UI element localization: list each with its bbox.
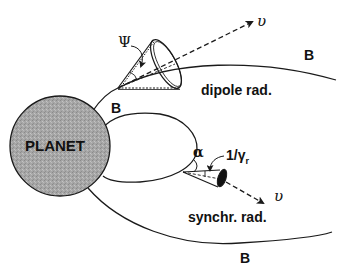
psi-label: Ψ [118, 33, 131, 51]
dipole-rad-label: dipole rad. [201, 82, 272, 98]
alpha-angle-arc [194, 160, 197, 172]
b-label-top: B [304, 47, 314, 63]
dipole-velocity-symbol: υ [257, 12, 266, 30]
field-line-inner-loop [103, 113, 197, 182]
gamma-label-subscript: r [245, 156, 249, 166]
planet-label: PLANET [25, 137, 85, 154]
b-label-bottom: B [240, 250, 250, 266]
b-label-inner: B [111, 100, 121, 116]
gamma-label-main: 1/γ [226, 147, 246, 163]
gamma-label: 1/γr [226, 147, 249, 166]
synchrotron-cone [183, 168, 229, 188]
alpha-label: α [193, 144, 204, 160]
radiation-diagram: PLANET υ Ψ dipole rad. B B B α [0, 0, 349, 275]
synchrotron-velocity-symbol: υ [274, 187, 283, 205]
planet: PLANET [10, 96, 110, 196]
synchr-rad-label: synchr. rad. [188, 209, 267, 225]
svg-text:1/γr: 1/γr [226, 147, 249, 166]
dipole-velocity-arrow [118, 22, 252, 88]
synchrotron-velocity-arrow [226, 182, 263, 203]
gamma-pointer-arrow [210, 156, 224, 170]
